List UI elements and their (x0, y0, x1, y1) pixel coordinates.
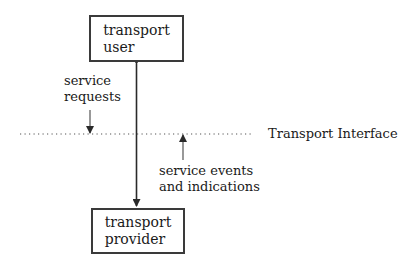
transport-provider-label: transport provider (105, 214, 172, 248)
transport-interface-label: Transport Interface (268, 126, 398, 142)
service-requests-label: service requests (64, 73, 121, 105)
transport-provider-box: transport provider (91, 208, 185, 254)
service-events-label: service events and indications (159, 163, 260, 195)
transport-user-box: transport user (89, 15, 184, 62)
transport-user-label: transport user (103, 22, 170, 56)
